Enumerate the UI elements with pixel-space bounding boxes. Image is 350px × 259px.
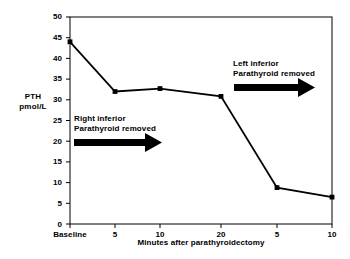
x-tick-label-5a: 5 [100,230,130,239]
y-tick-label-15: 15 [44,157,62,166]
y-tick-label-0: 0 [44,220,62,229]
annotation-left-inferior: Left inferior Parathyroid removed [233,59,315,79]
x-tick-label-20: 20 [206,230,236,239]
data-point [158,86,163,91]
y-tick-label-10: 10 [44,178,62,187]
y-tick-label-30: 30 [44,95,62,104]
y-tick-label-45: 45 [44,33,62,42]
x-tick-label-10a: 10 [145,230,175,239]
y-tick-label-40: 40 [44,54,62,63]
x-axis-ticks [70,224,332,228]
y-tick-label-35: 35 [44,74,62,83]
data-point [68,39,73,44]
y-axis-ticks [66,17,70,224]
chart-figure: PTH pmol/L Minutes after parathyroidecto… [0,0,350,259]
x-axis-title: Minutes after parathyroidectomy [70,238,332,247]
y-tick-label-25: 25 [44,116,62,125]
annotation-right-inferior-line2: Parathyroid removed [74,124,156,134]
x-tick-label-10b: 10 [317,230,347,239]
annotation-left-inferior-line2: Parathyroid removed [233,69,315,79]
data-point [275,185,280,190]
y-tick-label-50: 50 [44,12,62,21]
data-point [113,89,118,94]
data-point [219,94,224,99]
x-tick-label-baseline: Baseline [45,230,95,239]
data-point [330,195,335,200]
y-tick-label-20: 20 [44,137,62,146]
x-tick-label-5b: 5 [262,230,292,239]
annotation-right-inferior-line1: Right inferior [74,114,156,124]
annotation-left-inferior-line1: Left inferior [233,59,315,69]
annotation-right-inferior: Right inferior Parathyroid removed [74,114,156,134]
y-tick-label-5: 5 [44,199,62,208]
